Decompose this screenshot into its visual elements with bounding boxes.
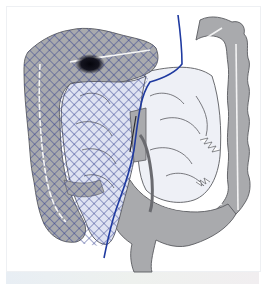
colon-diagram [0, 0, 265, 291]
small-bowel [138, 67, 221, 202]
lesion-marker [75, 54, 105, 74]
